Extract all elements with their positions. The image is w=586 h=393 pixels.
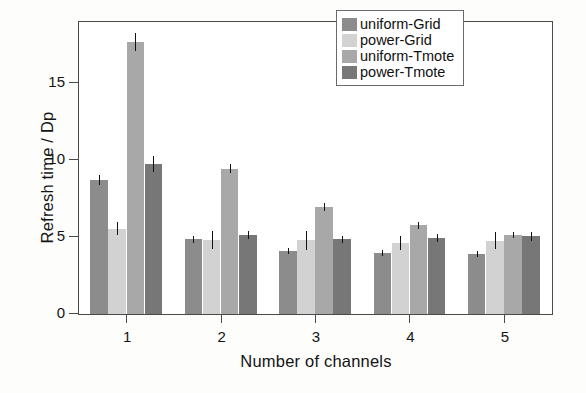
error-bar bbox=[248, 231, 249, 239]
error-bar bbox=[531, 232, 532, 241]
error-bar-wrap bbox=[90, 22, 108, 314]
error-bar-wrap bbox=[145, 22, 163, 314]
chart-figure: Refresh time / Dp Number of channels 051… bbox=[0, 0, 586, 393]
error-bar-wrap bbox=[279, 22, 297, 314]
x-axis-tick-label: 5 bbox=[491, 328, 519, 345]
error-bar-wrap bbox=[315, 22, 333, 314]
x-axis-tick-label: 2 bbox=[208, 328, 236, 345]
x-axis-tick-label: 4 bbox=[396, 328, 424, 345]
error-bar bbox=[288, 248, 289, 254]
error-bar bbox=[437, 234, 438, 243]
y-axis-tick: 5 bbox=[69, 236, 78, 237]
legend-swatch-icon bbox=[342, 50, 357, 63]
legend-item-label: power-Tmote bbox=[360, 65, 445, 80]
error-bar bbox=[117, 222, 118, 235]
error-bar bbox=[495, 232, 496, 249]
x-axis-tick: 5 bbox=[504, 315, 505, 323]
y-axis-title: Refresh time / Dp bbox=[38, 68, 57, 288]
error-bar-wrap bbox=[486, 22, 504, 314]
error-bar bbox=[324, 203, 325, 211]
error-bar bbox=[135, 33, 136, 51]
legend-swatch-icon bbox=[342, 34, 357, 47]
error-bar bbox=[212, 231, 213, 249]
y-axis-tick-label: 5 bbox=[57, 227, 65, 244]
legend-item: uniform-Tmote bbox=[342, 48, 454, 64]
legend-item-label: uniform-Grid bbox=[360, 17, 441, 32]
error-bar bbox=[342, 236, 343, 244]
y-axis-tick: 0 bbox=[69, 313, 78, 314]
error-bar bbox=[400, 236, 401, 250]
x-axis-tick: 3 bbox=[315, 315, 316, 323]
x-axis-tick-label: 3 bbox=[302, 328, 330, 345]
y-axis-tick-label: 10 bbox=[48, 150, 65, 167]
chart-legend: uniform-Gridpower-Griduniform-Tmotepower… bbox=[336, 10, 464, 86]
error-bar bbox=[193, 236, 194, 243]
error-bar-wrap bbox=[127, 22, 145, 314]
legend-swatch-icon bbox=[342, 18, 357, 31]
error-bar-wrap bbox=[185, 22, 203, 314]
error-bar-wrap bbox=[203, 22, 221, 314]
plot-inner: 05101512345 bbox=[79, 22, 552, 314]
y-axis-tick: 10 bbox=[69, 159, 78, 160]
y-axis-tick-label: 15 bbox=[48, 73, 65, 90]
error-bar-wrap bbox=[504, 22, 522, 314]
x-axis-tick: 1 bbox=[126, 315, 127, 323]
x-axis-tick: 4 bbox=[409, 315, 410, 323]
error-bar bbox=[513, 232, 514, 238]
legend-item-label: uniform-Tmote bbox=[360, 49, 454, 64]
error-bar bbox=[306, 231, 307, 250]
error-bar-wrap bbox=[297, 22, 315, 314]
error-bar-wrap bbox=[522, 22, 540, 314]
legend-item: power-Tmote bbox=[342, 64, 454, 80]
legend-swatch-icon bbox=[342, 66, 357, 79]
error-bar bbox=[99, 175, 100, 185]
y-axis-tick-label: 0 bbox=[57, 304, 65, 321]
error-bar-wrap bbox=[221, 22, 239, 314]
error-bar-wrap bbox=[239, 22, 257, 314]
error-bar-wrap bbox=[108, 22, 126, 314]
error-bar-wrap bbox=[468, 22, 486, 314]
x-axis-title: Number of channels bbox=[78, 352, 554, 371]
error-bar bbox=[153, 156, 154, 171]
plot-area: 05101512345 bbox=[78, 21, 553, 315]
error-bar bbox=[477, 251, 478, 258]
error-bar bbox=[418, 222, 419, 229]
error-bar bbox=[382, 250, 383, 256]
x-axis-tick-label: 1 bbox=[113, 328, 141, 345]
y-axis-tick: 15 bbox=[69, 82, 78, 83]
legend-item: uniform-Grid bbox=[342, 16, 454, 32]
legend-item-label: power-Grid bbox=[360, 33, 432, 48]
legend-item: power-Grid bbox=[342, 32, 454, 48]
x-axis-tick: 2 bbox=[221, 315, 222, 323]
error-bar bbox=[230, 164, 231, 173]
